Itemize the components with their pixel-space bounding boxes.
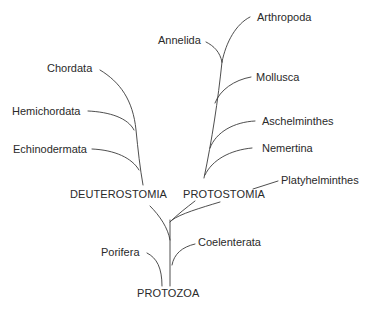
branch-echinodermata [92,149,139,170]
label-hemichordata: Hemichordata [12,105,80,117]
branch-aschelminthes [210,121,255,148]
branch-mollusca [215,77,251,103]
label-platyhelminthes: Platyhelminthes [281,174,359,186]
protostome-trunk [204,62,222,178]
label-protozoa: PROTOZOA [137,287,199,299]
label-aschelminthes: Aschelminthes [262,115,334,127]
branch-chordata [100,70,143,185]
label-nemertina: Nemertina [262,142,313,154]
branch-hemichordata [88,111,134,130]
branch-deuterostomia [150,206,170,240]
label-deuterostomia: DEUTEROSTOMIA [70,188,167,200]
label-annelida: Annelida [158,34,201,46]
label-chordata: Chordata [47,62,92,74]
branch-nemertina [205,148,252,175]
label-protostomia: PROTOSTOMIA [183,188,265,200]
label-coelenterata: Coelenterata [198,236,261,248]
phylogenetic-tree-diagram: Arthropoda Annelida Mollusca Aschelminth… [0,0,373,309]
label-porifera: Porifera [101,246,140,258]
branch-protostomia-b [172,202,220,220]
branch-coelenterata [172,244,195,265]
branch-annelida [206,42,222,62]
label-arthropoda: Arthropoda [257,11,311,23]
branch-porifera [147,253,162,286]
label-echinodermata: Echinodermata [13,143,87,155]
label-mollusca: Mollusca [256,71,299,83]
branch-arthropoda [222,17,250,62]
